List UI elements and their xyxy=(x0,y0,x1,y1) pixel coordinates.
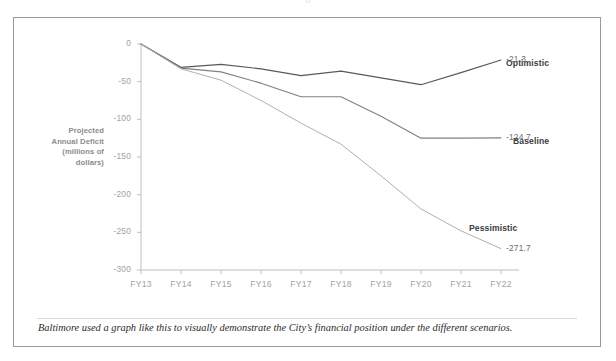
x-tick-label: FY22 xyxy=(481,279,521,289)
series-label-pessimistic: Pessimistic xyxy=(469,223,517,233)
y-tick-label: -300 xyxy=(97,264,131,274)
chart-region: ProjectedAnnual Deficit(millions ofdolla… xyxy=(14,18,602,302)
series-line-pessimistic xyxy=(141,44,501,249)
x-tick-label: FY17 xyxy=(281,279,321,289)
axis-layer xyxy=(137,44,519,274)
figure-caption: Baltimore used a graph like this to visu… xyxy=(38,321,586,335)
caption-separator xyxy=(37,318,577,319)
y-tick-label: -100 xyxy=(97,113,131,123)
x-tick-label: FY15 xyxy=(201,279,241,289)
clipped-header-text: y xyxy=(0,0,616,3)
y-tick-label: -200 xyxy=(97,189,131,199)
x-tick-label: FY16 xyxy=(241,279,281,289)
x-tick-label: FY14 xyxy=(161,279,201,289)
x-tick-label: FY13 xyxy=(121,279,161,289)
series-line-baseline xyxy=(141,44,501,138)
y-tick-label: -250 xyxy=(97,226,131,236)
series-line-optimistic xyxy=(141,44,501,85)
figure-frame: ProjectedAnnual Deficit(millions ofdolla… xyxy=(13,17,601,347)
y-tick-label: 0 xyxy=(97,38,131,48)
y-tick-label: -50 xyxy=(97,76,131,86)
series-end-value-baseline: -124.7 xyxy=(506,132,531,142)
x-tick-label: FY18 xyxy=(321,279,361,289)
x-tick-label: FY19 xyxy=(361,279,401,289)
series-layer xyxy=(141,44,501,249)
x-tick-label: FY20 xyxy=(401,279,441,289)
series-end-value-optimistic: -21.3 xyxy=(506,54,526,64)
series-end-value-pessimistic: -271.7 xyxy=(506,243,531,253)
x-tick-label: FY21 xyxy=(441,279,481,289)
y-tick-label: -150 xyxy=(97,151,131,161)
